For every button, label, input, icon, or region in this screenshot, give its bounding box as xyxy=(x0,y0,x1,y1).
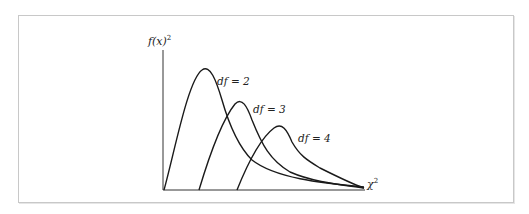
x-axis-label: χ2 xyxy=(366,177,378,191)
chi-square-chart: f(x)2 χ2 df = 2 df = 3 df = 4 xyxy=(0,0,529,214)
curve-df-2 xyxy=(164,69,364,190)
label-df-4: df = 4 xyxy=(298,132,331,144)
label-df-2: df = 2 xyxy=(217,75,250,87)
label-df-3: df = 3 xyxy=(253,103,286,115)
y-axis-label: f(x)2 xyxy=(147,34,171,48)
